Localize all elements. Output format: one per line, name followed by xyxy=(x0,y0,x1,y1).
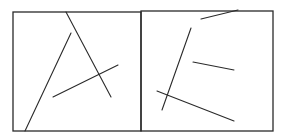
right-panel-frame xyxy=(141,11,273,131)
right-line-segment-4 xyxy=(157,91,234,121)
left-panel xyxy=(13,12,141,131)
right-line-segment-3 xyxy=(193,62,234,70)
left-line-segment-1 xyxy=(66,12,111,97)
line-segment-figure xyxy=(0,0,285,137)
right-line-segment-2 xyxy=(162,28,191,110)
left-panel-frame xyxy=(13,12,141,131)
right-panel xyxy=(141,10,273,131)
left-line-segment-2 xyxy=(25,33,71,131)
diagram-canvas xyxy=(0,0,285,137)
